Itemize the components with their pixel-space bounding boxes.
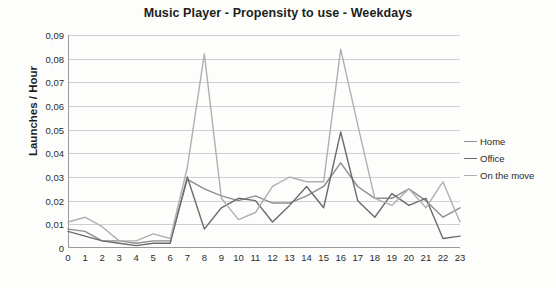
x-tick-label: 7 [185,252,190,263]
plot-area [68,35,460,248]
legend-item-label: Home [480,136,505,147]
x-tick-label: 11 [251,252,261,263]
legend-item[interactable]: Home [464,133,554,150]
y-axis-tick-labels: 00,010,020,030,040,050,060,070,080,09 [18,35,64,248]
x-tick-label: 17 [352,252,363,263]
y-tick-label: 0 [22,243,64,254]
y-tick-label: 0,02 [22,195,64,206]
x-tick-label: 9 [219,252,224,263]
chart-legend: HomeOfficeOn the move [464,133,554,184]
legend-item[interactable]: Office [464,150,554,167]
x-tick-label: 15 [318,252,329,263]
x-tick-label: 22 [438,252,449,263]
x-tick-label: 16 [335,252,346,263]
chart-title: Music Player - Propensity to use - Weekd… [0,6,556,20]
x-tick-label: 10 [233,252,244,263]
y-axis-title: Launches / Hour [27,36,39,186]
y-tick-label: 0,01 [22,219,64,230]
x-tick-label: 14 [301,252,312,263]
legend-swatch-icon [464,141,477,142]
legend-item-label: Office [480,153,505,164]
chart-page: Music Player - Propensity to use - Weekd… [0,0,556,288]
x-tick-label: 1 [82,252,87,263]
x-tick-label: 2 [99,252,104,263]
series-lines [68,35,460,248]
x-tick-label: 8 [202,252,207,263]
x-tick-label: 23 [455,252,466,263]
x-tick-label: 5 [151,252,156,263]
x-tick-label: 20 [404,252,415,263]
legend-swatch-icon [464,158,477,159]
legend-swatch-icon [464,175,477,176]
x-tick-label: 3 [116,252,121,263]
series-line [68,163,460,243]
legend-item[interactable]: On the move [464,167,554,184]
x-axis-tick-labels: 01234567891011121314151617181920212223 [68,252,460,268]
x-tick-label: 0 [65,252,70,263]
x-tick-label: 19 [387,252,398,263]
x-tick-label: 6 [168,252,173,263]
x-tick-label: 21 [421,252,432,263]
x-tick-label: 12 [267,252,278,263]
legend-item-label: On the move [480,170,534,181]
x-tick-label: 18 [369,252,380,263]
x-tick-label: 13 [284,252,295,263]
series-line [68,132,460,246]
x-tick-label: 4 [134,252,139,263]
